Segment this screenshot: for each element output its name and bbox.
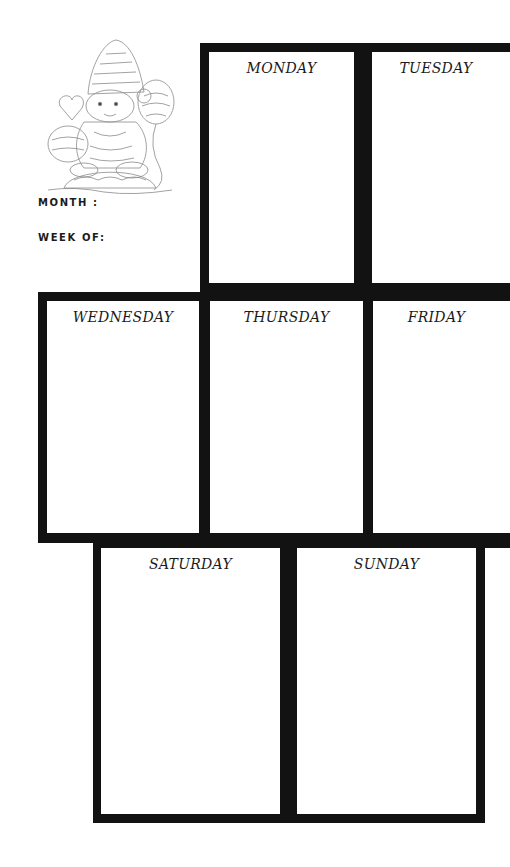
month-label: MONTH : [38,197,99,208]
day-box-thursday[interactable]: THURSDAY [210,301,363,533]
day-box-friday[interactable]: FRIDAY [373,301,510,533]
day-box-sunday[interactable]: SUNDAY [297,548,476,814]
day-label-saturday: SATURDAY [101,556,280,572]
day-label-wednesday: WEDNESDAY [47,309,199,325]
bottom-row-band-extension [485,539,510,548]
bear-illustration-icon [44,36,176,196]
day-label-monday: MONDAY [209,60,354,76]
day-label-tuesday: TUESDAY [372,60,500,76]
day-label-friday: FRIDAY [373,309,500,325]
day-label-sunday: SUNDAY [297,556,476,572]
day-box-tuesday[interactable]: TUESDAY [372,52,510,283]
day-label-thursday: THURSDAY [210,309,363,325]
day-box-wednesday[interactable]: WEDNESDAY [47,301,199,533]
day-box-monday[interactable]: MONDAY [209,52,354,283]
week-of-label: WEEK OF: [38,232,106,243]
day-box-saturday[interactable]: SATURDAY [101,548,280,814]
